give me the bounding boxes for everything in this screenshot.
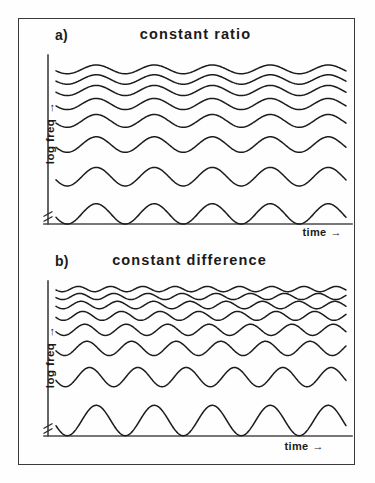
waveform-trace <box>56 75 346 84</box>
panel-b-x-axis-label: time→ <box>284 440 324 452</box>
figure-root: a) constant ratio log freq→ time→ b) con… <box>0 0 375 483</box>
waveform-trace <box>56 293 346 299</box>
panel-b-x-axis-label-text: time <box>284 440 308 452</box>
figure-frame: a) constant ratio log freq→ time→ b) con… <box>18 18 355 465</box>
waveform-trace <box>56 167 346 186</box>
panel-a-y-axis-label-text: log freq <box>44 119 56 164</box>
arrow-right-icon: → <box>331 226 342 238</box>
panel-a-x-axis-label: time→ <box>302 226 342 238</box>
panel-constant-difference: b) constant difference log freq→ time→ <box>19 243 354 466</box>
panel-b-y-axis-label-text: log freq <box>44 343 56 388</box>
panel-b-y-axis-label: log freq→ <box>44 312 56 402</box>
waveform-trace <box>56 137 346 153</box>
waveform-trace <box>56 114 346 127</box>
waveform-trace <box>56 85 346 95</box>
waveform-trace <box>56 301 346 308</box>
panel-a-plot <box>19 19 356 243</box>
waveform-trace <box>56 311 346 320</box>
waveform-trace <box>56 286 346 291</box>
panel-a-y-axis-label: log freq→ <box>44 88 56 178</box>
panel-a-title: constant ratio <box>19 26 354 42</box>
arrow-right-icon: → <box>44 102 56 114</box>
waveform-trace <box>56 341 346 355</box>
panel-b-title: constant difference <box>19 252 354 268</box>
panel-constant-ratio: a) constant ratio log freq→ time→ <box>19 19 354 243</box>
waveform-trace <box>56 368 346 387</box>
waveform-trace <box>56 65 346 74</box>
waveform-trace <box>56 98 346 109</box>
panel-a-x-axis-label-text: time <box>302 226 326 238</box>
arrow-right-icon: → <box>44 326 56 338</box>
waveform-trace <box>56 405 346 435</box>
waveform-trace <box>56 324 346 335</box>
waveform-trace <box>56 204 346 224</box>
panel-b-plot <box>19 243 356 466</box>
arrow-right-icon: → <box>313 440 324 452</box>
